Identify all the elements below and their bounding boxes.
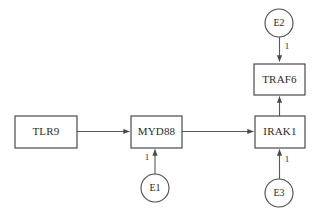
node-tlr9[interactable]: TLR9 [15,116,77,148]
edge-weight-e3-irak1: 1 [285,154,290,164]
node-myd88[interactable]: MYD88 [131,116,182,148]
node-label-myd88: MYD88 [138,125,176,137]
edge-e1-to-myd88: 1 [145,150,155,175]
node-traf6[interactable]: TRAF6 [254,64,305,95]
node-label-e2: E2 [273,17,284,28]
node-label-e1: E1 [149,182,160,193]
edge-weight-e1-myd88: 1 [145,152,150,162]
edge-e2-to-traf6: 1 [280,37,290,62]
node-e1[interactable]: E1 [141,174,169,202]
node-e3[interactable]: E3 [265,179,293,207]
node-label-tlr9: TLR9 [32,125,59,137]
node-label-e3: E3 [273,187,284,198]
node-e2[interactable]: E2 [265,9,293,37]
diagram-canvas: 1 1 1 TLR9 MYD88 IRAK1 [0,0,317,216]
node-label-traf6: TRAF6 [262,73,297,85]
node-label-irak1: IRAK1 [263,125,296,137]
edge-weight-e2-traf6: 1 [285,41,290,51]
node-irak1[interactable]: IRAK1 [255,116,305,148]
edge-e3-to-irak1: 1 [280,150,290,180]
pathway-diagram: 1 1 1 TLR9 MYD88 IRAK1 [0,0,317,216]
